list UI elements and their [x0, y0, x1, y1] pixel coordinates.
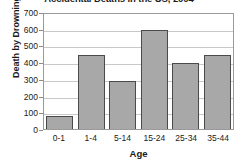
bar — [78, 55, 105, 129]
chart-title: Accidental Deaths in the US, 2004 — [0, 0, 238, 4]
x-axis-title: Age — [43, 148, 234, 159]
plot-area — [43, 13, 234, 130]
bar — [204, 55, 231, 129]
bar-series — [44, 14, 233, 129]
y-tick-label: 700 — [14, 9, 38, 17]
bar — [109, 81, 136, 129]
y-tick-label: 500 — [14, 42, 38, 50]
x-tick-label: 0-1 — [43, 133, 75, 143]
bar-slot — [107, 14, 139, 129]
bar — [141, 30, 168, 129]
y-tick-label: 400 — [14, 59, 38, 67]
y-axis-tick-labels: 7006005004003002001000 — [14, 9, 38, 134]
x-tick-label: 25-34 — [170, 133, 202, 143]
bar-slot — [44, 14, 76, 129]
x-tick-label: 15-24 — [138, 133, 170, 143]
y-tick-mark — [39, 97, 43, 98]
bar — [172, 63, 199, 129]
bar-slot — [139, 14, 171, 129]
y-tick-mark — [39, 30, 43, 31]
x-axis-tick-labels: 0-11-45-1415-2425-3435-44 — [43, 133, 234, 143]
x-tick-label: 5-14 — [107, 133, 139, 143]
y-tick-mark — [39, 130, 43, 131]
y-tick-mark — [39, 63, 43, 64]
x-tick-label: 35-44 — [202, 133, 234, 143]
y-tick-label: 100 — [14, 109, 38, 117]
y-tick-mark — [39, 113, 43, 114]
y-tick-label: 0 — [14, 126, 38, 134]
x-tick-label: 1-4 — [75, 133, 107, 143]
bar-chart: Accidental Deaths in the US, 2004 Death … — [0, 0, 238, 166]
y-tick-label: 300 — [14, 76, 38, 84]
y-tick-label: 200 — [14, 93, 38, 101]
bar — [46, 116, 73, 129]
y-tick-mark — [39, 46, 43, 47]
y-tick-mark — [39, 13, 43, 14]
bar-slot — [170, 14, 202, 129]
y-tick-label: 600 — [14, 26, 38, 34]
bar-slot — [202, 14, 234, 129]
y-tick-mark — [39, 80, 43, 81]
bar-slot — [76, 14, 108, 129]
